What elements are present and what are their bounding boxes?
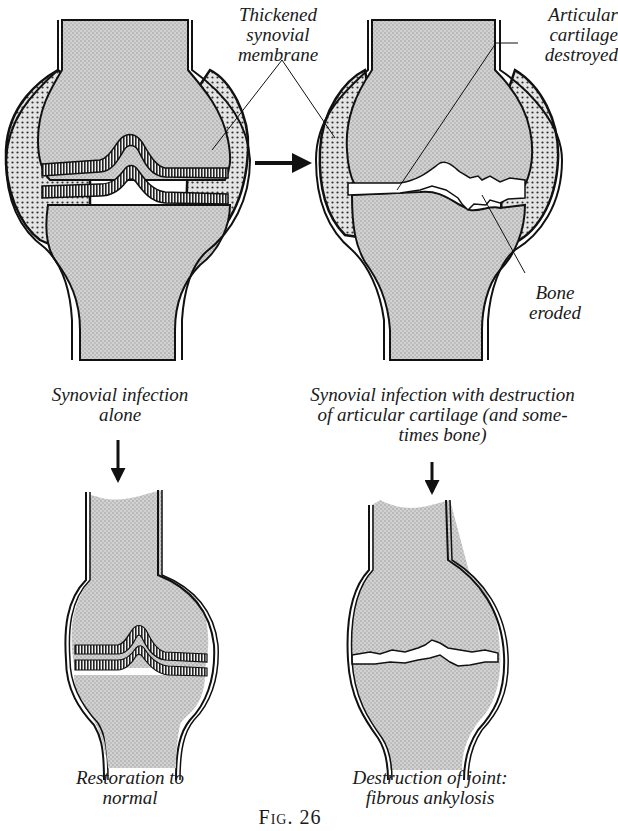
femur (72, 490, 209, 668)
label-thickened-synovial-membrane: Thickened synovial membrane (218, 5, 338, 65)
figure-26: Thickened synovial membrane Articular ca… (0, 0, 618, 831)
leader-synovial-right (282, 60, 335, 138)
tibia (352, 192, 525, 360)
femur (38, 20, 230, 180)
tibia (46, 205, 230, 360)
label-articular-cartilage-destroyed: Articular cartilage destroyed (514, 5, 618, 65)
joint-fibrous-ankylosis (348, 500, 509, 780)
caption-synovial-infection-alone: Synovial infection alone (20, 385, 220, 425)
caption-cartilage-destruction: Synovial infection with destruction of a… (275, 385, 610, 445)
label-bone-eroded: Bone eroded (515, 283, 595, 323)
joint-synovial-infection-alone (6, 20, 250, 360)
caption-restoration-to-normal: Restoration to normal (45, 768, 215, 808)
caption-fibrous-ankylosis: Destruction of joint: fibrous ankylosis (325, 768, 535, 808)
figure-caption: Fig. 26 (230, 806, 350, 829)
femur (347, 20, 532, 185)
joint-restored (65, 490, 218, 780)
